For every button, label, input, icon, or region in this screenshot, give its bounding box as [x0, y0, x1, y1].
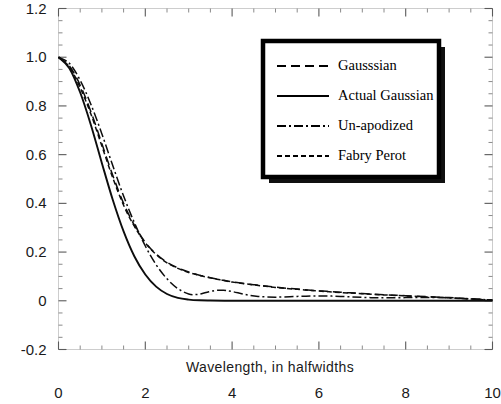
y-tick-label: 0 [38, 292, 46, 309]
chart-figure: -0.200.20.40.60.81.01.2 0246810 Waveleng… [0, 0, 501, 404]
x-tick-label: 8 [402, 384, 410, 401]
legend: GausssianActual GaussianUn-apodizedFabry… [263, 41, 445, 183]
y-axis-tick-labels: -0.200.20.40.60.81.01.2 [21, 0, 47, 358]
legend-label: Gausssian [338, 57, 398, 73]
y-tick-label: 0.6 [26, 146, 47, 163]
legend-label: Actual Gaussian [338, 87, 434, 103]
legend-label: Un-apodized [338, 117, 414, 133]
y-tick-label: 0.4 [26, 194, 47, 211]
x-axis-title: Wavelength, in halfwidths [186, 359, 354, 375]
y-tick-label: 0.8 [26, 97, 47, 114]
legend-label: Fabry Perot [338, 147, 406, 163]
y-tick-label: 1.0 [26, 48, 47, 65]
x-axis-tick-labels: 0246810 [54, 384, 501, 401]
x-tick-label: 10 [484, 384, 501, 401]
x-tick-label: 2 [141, 384, 149, 401]
y-tick-label: 0.2 [26, 243, 47, 260]
x-tick-label: 4 [228, 384, 236, 401]
y-tick-label: -0.2 [21, 341, 47, 358]
plot-canvas: -0.200.20.40.60.81.01.2 0246810 Waveleng… [0, 0, 501, 404]
y-tick-label: 1.2 [26, 0, 47, 17]
x-tick-label: 0 [54, 384, 62, 401]
x-tick-label: 6 [315, 384, 323, 401]
